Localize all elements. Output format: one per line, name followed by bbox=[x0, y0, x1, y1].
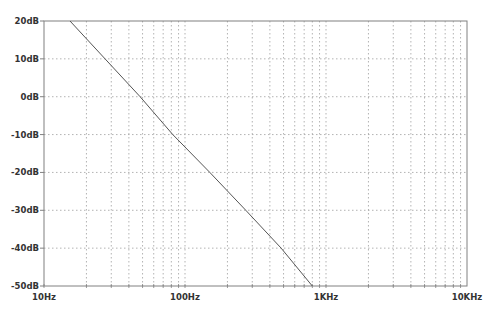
magnitude-trace bbox=[70, 21, 312, 286]
y-tick-label: 0dB bbox=[21, 92, 39, 102]
y-tick-label: -50dB bbox=[11, 281, 39, 291]
y-tick-label: -30dB bbox=[11, 205, 39, 215]
x-tick-label: 10Hz bbox=[32, 292, 56, 302]
y-tick-label: -20dB bbox=[11, 167, 39, 177]
y-tick-label: 10dB bbox=[15, 54, 39, 64]
x-tick-label: 10KHz bbox=[452, 292, 483, 302]
y-axis-ticks: 20dB10dB0dB-10dB-20dB-30dB-40dB-50dB bbox=[11, 16, 44, 291]
y-tick-label: 20dB bbox=[15, 16, 39, 26]
series-line-magnitude bbox=[70, 21, 312, 286]
bode-magnitude-chart: 20dB10dB0dB-10dB-20dB-30dB-40dB-50dB 10H… bbox=[0, 0, 496, 314]
x-tick-label: 100Hz bbox=[170, 292, 200, 302]
x-tick-label: 1KHz bbox=[314, 292, 339, 302]
x-axis-ticks: 10Hz100Hz1KHz10KHz bbox=[32, 284, 482, 302]
y-tick-label: -10dB bbox=[11, 130, 39, 140]
y-tick-label: -40dB bbox=[11, 243, 39, 253]
